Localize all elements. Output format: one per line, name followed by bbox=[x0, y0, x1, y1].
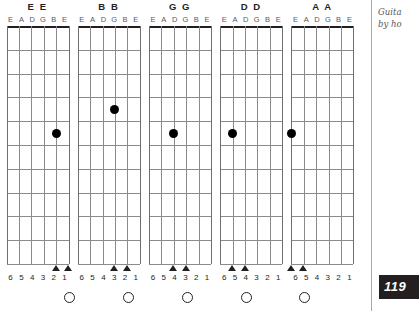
fret-line bbox=[78, 50, 140, 51]
string-name-label: G bbox=[181, 13, 189, 26]
fret-line bbox=[149, 169, 211, 170]
chord-title: B B bbox=[98, 0, 119, 13]
triangle-marker-icon bbox=[169, 265, 177, 271]
string-line bbox=[329, 26, 330, 264]
string-number-label: 5 bbox=[89, 273, 97, 282]
fret-line bbox=[291, 97, 353, 98]
fret-line bbox=[78, 97, 140, 98]
fret-line bbox=[78, 121, 140, 122]
margin-note-line-2: by ho bbox=[378, 18, 418, 30]
fret-line bbox=[78, 240, 140, 241]
string-line bbox=[140, 26, 141, 264]
string-number-label: 2 bbox=[335, 273, 343, 282]
fret-line bbox=[78, 216, 140, 217]
fret-line bbox=[149, 74, 211, 75]
fret-line bbox=[149, 193, 211, 194]
string-number-label: 3 bbox=[110, 273, 118, 282]
string-line bbox=[291, 26, 292, 264]
fret-line bbox=[78, 74, 140, 75]
fret-line bbox=[7, 216, 69, 217]
fret-line bbox=[220, 193, 282, 194]
margin-note-line-1: Guita bbox=[378, 6, 418, 18]
string-line bbox=[174, 26, 175, 264]
string-number-label: 2 bbox=[121, 273, 129, 282]
below-neck-markers: 654321 bbox=[7, 264, 69, 311]
string-line bbox=[90, 26, 91, 264]
string-number-label: 4 bbox=[242, 273, 250, 282]
string-name-label: B bbox=[50, 13, 58, 26]
string-number-label: 6 bbox=[149, 273, 157, 282]
string-name-label: D bbox=[99, 13, 107, 26]
string-name-label: B bbox=[192, 13, 200, 26]
string-name-row: EADGBE bbox=[220, 13, 282, 26]
fret-line bbox=[7, 50, 69, 51]
fret-line bbox=[149, 145, 211, 146]
finger-dot bbox=[228, 129, 237, 138]
page-number-badge: 119 bbox=[379, 275, 419, 299]
string-number-label: 3 bbox=[181, 273, 189, 282]
fret-line bbox=[220, 240, 282, 241]
fret-line bbox=[220, 216, 282, 217]
string-name-label: E bbox=[203, 13, 211, 26]
chord-title: A A bbox=[312, 0, 332, 13]
string-name-row: EADGBE bbox=[291, 13, 353, 26]
string-name-label: E bbox=[291, 13, 299, 26]
fretboard bbox=[291, 26, 353, 264]
string-name-label: E bbox=[220, 13, 228, 26]
string-line bbox=[257, 26, 258, 264]
string-name-label: B bbox=[263, 13, 271, 26]
chord-diagram-g: G GEADGBE654321 bbox=[146, 0, 213, 311]
finger-dot bbox=[169, 129, 178, 138]
string-line bbox=[44, 26, 45, 264]
chord-title: G G bbox=[169, 0, 191, 13]
string-name-label: A bbox=[160, 13, 168, 26]
string-line bbox=[282, 26, 283, 264]
string-number-label: 6 bbox=[291, 273, 299, 282]
string-line bbox=[149, 26, 150, 264]
triangle-marker-icon bbox=[64, 265, 72, 271]
open-string-circle-icon bbox=[123, 292, 134, 303]
nut bbox=[149, 26, 211, 28]
string-number-row: 654321 bbox=[149, 273, 211, 282]
string-number-label: 2 bbox=[192, 273, 200, 282]
fret-line bbox=[220, 97, 282, 98]
string-name-label: G bbox=[110, 13, 118, 26]
string-line bbox=[78, 26, 79, 264]
fret-line bbox=[291, 145, 353, 146]
fret-line bbox=[220, 121, 282, 122]
finger-dot bbox=[110, 105, 119, 114]
fret-line bbox=[7, 169, 69, 170]
string-line bbox=[304, 26, 305, 264]
fret-line bbox=[291, 193, 353, 194]
string-name-label: E bbox=[7, 13, 15, 26]
string-number-label: 3 bbox=[39, 273, 47, 282]
string-number-label: 6 bbox=[78, 273, 86, 282]
string-number-row: 654321 bbox=[78, 273, 140, 282]
triangle-marker-icon bbox=[52, 265, 60, 271]
string-line bbox=[115, 26, 116, 264]
string-number-label: 3 bbox=[253, 273, 261, 282]
string-number-label: 5 bbox=[160, 273, 168, 282]
string-line bbox=[211, 26, 212, 264]
fret-line bbox=[78, 145, 140, 146]
string-number-label: 3 bbox=[324, 273, 332, 282]
string-number-label: 1 bbox=[61, 273, 69, 282]
fret-line bbox=[7, 145, 69, 146]
fret-line bbox=[291, 74, 353, 75]
string-line bbox=[316, 26, 317, 264]
chord-diagram-e: E EEADGBE654321 bbox=[4, 0, 71, 311]
fret-line bbox=[291, 50, 353, 51]
string-number-label: 1 bbox=[274, 273, 282, 282]
chord-diagram-row: E EEADGBE654321B BEADGBE654321G GEADGBE6… bbox=[0, 0, 356, 311]
string-name-label: A bbox=[302, 13, 310, 26]
string-name-row: EADGBE bbox=[149, 13, 211, 26]
string-line bbox=[31, 26, 32, 264]
string-number-label: 5 bbox=[17, 273, 25, 282]
fret-line bbox=[220, 74, 282, 75]
fret-line bbox=[291, 216, 353, 217]
fretboard bbox=[149, 26, 211, 264]
string-line bbox=[245, 26, 246, 264]
below-neck-markers: 654321 bbox=[78, 264, 140, 311]
fret-line bbox=[78, 169, 140, 170]
